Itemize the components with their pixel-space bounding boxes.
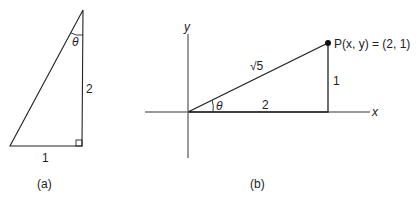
figure-b-diagram: y x θ √5 2 1 P(x, y) = (2, 1) (b) — [145, 20, 410, 191]
triangle-b — [188, 43, 328, 112]
figure-a-triangle: θ 2 1 (a) — [10, 10, 93, 191]
side-label-vertical-a: 2 — [86, 82, 93, 96]
point-p — [325, 40, 331, 46]
caption-a: (a) — [37, 177, 52, 191]
side-label-horizontal-a: 1 — [42, 151, 49, 165]
caption-b: (b) — [250, 177, 265, 191]
angle-theta-b: θ — [216, 99, 223, 113]
angle-theta-a: θ — [72, 35, 79, 49]
figure-canvas: θ 2 1 (a) y x θ √5 2 1 P(x, y) = (2, 1) … — [0, 0, 416, 200]
point-label: P(x, y) = (2, 1) — [334, 37, 410, 51]
side-label-vertical-b: 1 — [333, 74, 340, 88]
triangle-a — [10, 10, 83, 146]
y-axis-label: y — [183, 20, 191, 34]
x-axis-label: x — [371, 105, 379, 119]
side-label-horizontal-b: 2 — [262, 98, 269, 112]
right-angle-marker — [76, 140, 82, 146]
angle-arc-b — [212, 100, 213, 112]
hypotenuse-label: √5 — [250, 59, 264, 73]
